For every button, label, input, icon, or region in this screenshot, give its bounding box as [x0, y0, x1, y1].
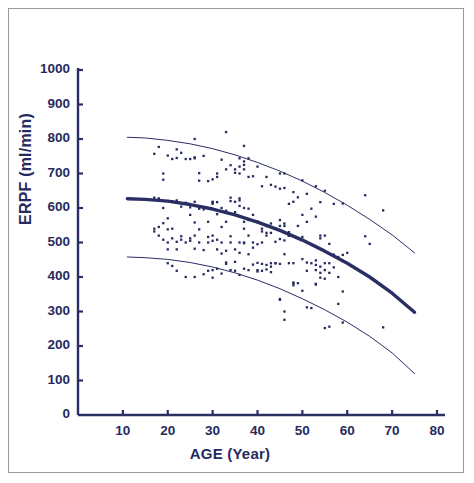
data-point	[315, 283, 317, 285]
x-tick-label-50: 50	[282, 423, 322, 438]
data-point	[162, 179, 164, 181]
data-point	[158, 226, 160, 228]
data-point	[220, 272, 222, 274]
data-point	[225, 210, 227, 212]
data-point	[167, 248, 169, 250]
x-tick-label-70: 70	[372, 423, 412, 438]
data-point	[153, 228, 155, 230]
data-point	[216, 268, 218, 270]
data-point	[158, 234, 160, 236]
data-point	[247, 269, 249, 271]
data-point	[306, 261, 308, 263]
data-point	[220, 241, 222, 243]
data-point	[162, 239, 164, 241]
y-tick-label-500: 500	[22, 234, 70, 249]
x-axis-title: AGE (Year)	[100, 445, 360, 462]
data-point	[306, 306, 308, 308]
data-point	[252, 175, 254, 177]
data-point	[167, 241, 169, 243]
data-point	[207, 270, 209, 272]
data-point	[297, 282, 299, 284]
data-point	[229, 164, 231, 166]
data-point	[328, 272, 330, 274]
data-point	[315, 215, 317, 217]
data-point	[225, 131, 227, 133]
data-point	[194, 276, 196, 278]
data-point	[238, 241, 240, 243]
data-point	[306, 193, 308, 195]
data-point	[252, 247, 254, 249]
data-point	[333, 266, 335, 268]
data-point	[194, 234, 196, 236]
data-point	[297, 196, 299, 198]
x-tick-label-10: 10	[103, 423, 143, 438]
data-point	[382, 209, 384, 211]
data-point	[234, 168, 236, 170]
data-point	[185, 158, 187, 160]
y-tick-label-800: 800	[22, 130, 70, 145]
data-point	[211, 277, 213, 279]
data-point	[185, 276, 187, 278]
data-point	[162, 222, 164, 224]
data-point	[216, 201, 218, 203]
data-point	[238, 172, 240, 174]
data-point	[369, 243, 371, 245]
data-point	[324, 262, 326, 264]
data-point	[211, 240, 213, 242]
data-point	[243, 268, 245, 270]
data-point	[261, 185, 263, 187]
data-point	[180, 205, 182, 207]
data-point	[211, 269, 213, 271]
data-point	[261, 230, 263, 232]
data-point	[324, 269, 326, 271]
x-tick-label-60: 60	[327, 423, 367, 438]
data-point	[234, 172, 236, 174]
data-point	[238, 199, 240, 201]
x-tick-label-40: 40	[238, 423, 278, 438]
data-point	[194, 248, 196, 250]
data-point	[220, 226, 222, 228]
data-point	[176, 157, 178, 159]
data-point	[220, 207, 222, 209]
data-point	[315, 185, 317, 187]
y-tick-label-0: 0	[22, 406, 70, 421]
data-point	[292, 201, 294, 203]
data-point	[256, 270, 258, 272]
data-point	[324, 327, 326, 329]
data-point	[306, 221, 308, 223]
scatter-series	[153, 131, 384, 329]
data-point	[243, 228, 245, 230]
data-point	[229, 241, 231, 243]
data-point	[337, 256, 339, 258]
data-point	[243, 221, 245, 223]
data-point	[310, 208, 312, 210]
data-point	[297, 225, 299, 227]
data-point	[319, 237, 321, 239]
data-point	[180, 235, 182, 237]
data-point	[261, 228, 263, 230]
data-point	[211, 178, 213, 180]
data-point	[171, 237, 173, 239]
data-point	[211, 201, 213, 203]
data-point	[176, 248, 178, 250]
data-point	[256, 262, 258, 264]
data-point	[279, 263, 281, 265]
data-point	[216, 176, 218, 178]
data-point	[153, 230, 155, 232]
data-point	[256, 165, 258, 167]
curve-mean-regression	[127, 199, 414, 313]
data-point	[265, 176, 267, 178]
y-tick-label-900: 900	[22, 96, 70, 111]
data-point	[247, 157, 249, 159]
data-point	[265, 264, 267, 266]
chart-svg	[0, 0, 474, 483]
data-point	[225, 250, 227, 252]
data-point	[337, 303, 339, 305]
data-point	[261, 270, 263, 272]
y-tick-label-1000: 1000	[22, 61, 70, 76]
data-point	[243, 164, 245, 166]
data-point	[234, 211, 236, 213]
data-point	[238, 274, 240, 276]
data-point	[247, 219, 249, 221]
data-point	[328, 262, 330, 264]
